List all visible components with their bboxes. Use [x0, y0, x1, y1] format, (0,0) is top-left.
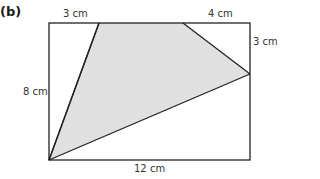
label-right: 3 cm	[253, 36, 277, 47]
label-top-right: 4 cm	[208, 8, 233, 19]
label-top-left: 3 cm	[63, 8, 88, 19]
label-width: 12 cm	[134, 163, 165, 174]
shaded-quadrilateral	[49, 23, 250, 160]
label-height: 8 cm	[23, 86, 48, 97]
